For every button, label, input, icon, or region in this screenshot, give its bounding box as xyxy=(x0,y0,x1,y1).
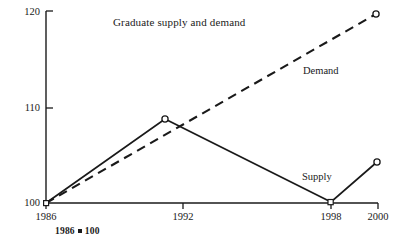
equals-square-icon xyxy=(78,229,82,233)
data-point-supply-1998 xyxy=(328,200,333,205)
data-point-supply-1991 xyxy=(162,116,168,122)
footnote-base-value: 100 xyxy=(85,226,100,236)
series-label-supply: Supply xyxy=(302,172,332,183)
data-point-demand-2000 xyxy=(373,11,379,17)
x-axis-tick-label-1986: 1986 xyxy=(26,212,66,223)
chart-plot-area xyxy=(0,0,402,245)
x-axis-tick-label-1992: 1992 xyxy=(163,212,203,223)
footnote-base-year: 1986 xyxy=(55,226,75,236)
chart-container: 120 110 100 1986 1992 1998 2000 Graduate… xyxy=(0,0,402,245)
x-axis-tick-label-1998: 1998 xyxy=(311,212,351,223)
chart-subtitle-footnote: 1986100 xyxy=(55,227,100,237)
chart-title: Graduate supply and demand xyxy=(113,17,246,28)
series-line-supply xyxy=(46,119,377,203)
x-axis-tick-label-2000: 2000 xyxy=(358,212,398,223)
y-axis-tick-label-120: 120 xyxy=(10,7,40,18)
y-axis-tick-label-100: 100 xyxy=(10,198,40,209)
series-label-demand: Demand xyxy=(303,66,339,77)
data-point-supply-2000 xyxy=(374,159,380,165)
y-axis-tick-label-110: 110 xyxy=(10,103,40,114)
data-point-origin xyxy=(44,201,49,206)
